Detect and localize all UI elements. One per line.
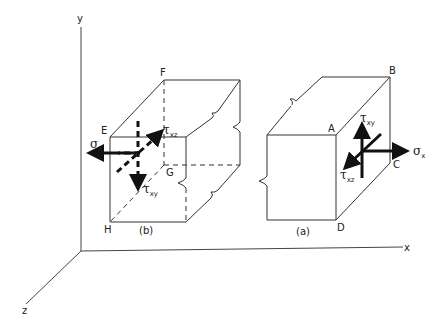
coordinate-axes: y x z <box>22 13 410 316</box>
tau-xz-label-b: τxz <box>163 123 178 139</box>
vertex-label-c: C <box>393 159 400 170</box>
vertex-label-g: G <box>166 167 174 178</box>
tau-xy-label-a: τxy <box>360 111 375 127</box>
z-axis <box>26 251 81 304</box>
tau-xz-arrow-front <box>347 162 351 166</box>
cube-a-stress-arrows <box>347 127 404 178</box>
stress-element-diagram: y x z E F G H (b) <box>0 0 443 328</box>
z-axis-label: z <box>22 305 27 316</box>
tau-xz-label-a: τxz <box>340 168 355 184</box>
tau-xz-shaft <box>351 134 381 162</box>
y-axis-label: y <box>77 13 83 24</box>
x-axis-label: x <box>404 242 410 253</box>
cube-b: E F G H (b) σx τxz τxy <box>90 67 240 236</box>
vertex-label-f: F <box>160 67 166 78</box>
cube-a-caption: (a) <box>296 226 310 237</box>
cube-a: A B C D (a) τxy σx τxz <box>259 65 425 237</box>
x-axis <box>81 247 403 251</box>
vertex-label-b: B <box>389 65 396 76</box>
vertex-label-a: A <box>328 123 335 134</box>
sigma-x-label-b: σx <box>90 137 102 153</box>
tau-xy-label-b: τxy <box>143 182 158 198</box>
vertex-label-h: H <box>104 224 112 235</box>
sigma-x-label-a: σx <box>413 144 425 160</box>
vertex-label-d: D <box>337 222 345 233</box>
cube-b-caption: (b) <box>139 225 153 236</box>
vertex-label-e: E <box>101 125 107 136</box>
